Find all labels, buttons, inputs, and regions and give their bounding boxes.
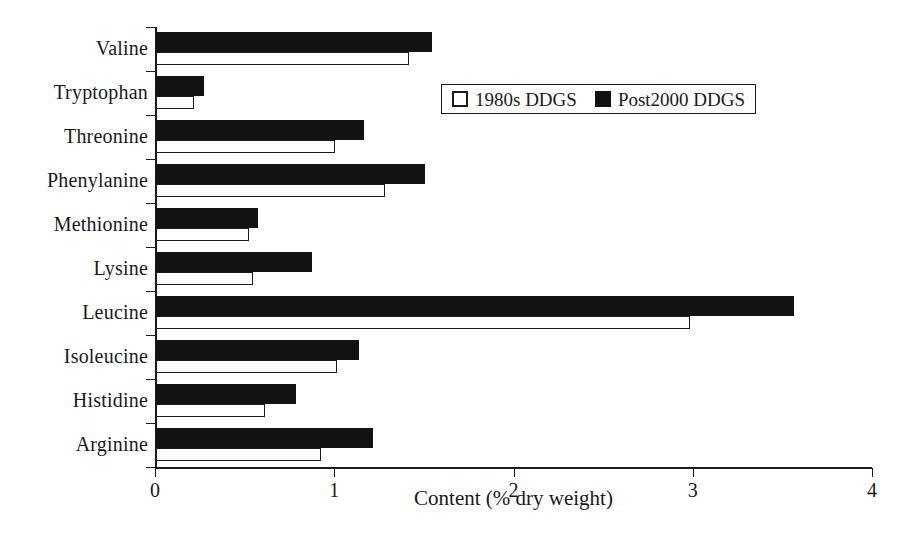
- bar-post2000: [156, 296, 794, 316]
- bar-post2000: [156, 340, 359, 360]
- x-axis-tick: [334, 468, 335, 477]
- bar-1980s: [156, 448, 321, 461]
- y-axis-category-label: Arginine: [0, 434, 148, 454]
- bar-post2000: [156, 428, 373, 448]
- y-axis-category-label: Leucine: [0, 302, 148, 322]
- legend-item-post2000: Post2000 DDGS: [595, 90, 745, 109]
- chart-legend: 1980s DDGS Post2000 DDGS: [441, 84, 756, 114]
- bar-post2000: [156, 76, 204, 96]
- bar-1980s: [156, 404, 265, 417]
- y-axis-tick: [146, 467, 155, 468]
- bar-1980s: [156, 228, 249, 241]
- bar-1980s: [156, 184, 385, 197]
- y-axis-tick: [146, 247, 155, 248]
- y-axis-tick: [146, 115, 155, 116]
- bar-1980s: [156, 52, 409, 65]
- y-axis-tick: [146, 159, 155, 160]
- legend-label-1980s: 1980s DDGS: [475, 90, 577, 109]
- x-axis-title: Content (% dry weight): [155, 486, 872, 511]
- y-axis-category-label: Threonine: [0, 126, 148, 146]
- y-axis-tick: [146, 203, 155, 204]
- y-axis-category-label: Valine: [0, 38, 148, 58]
- y-axis-category-label: Phenylanine: [0, 170, 148, 190]
- bar-post2000: [156, 164, 425, 184]
- y-axis-category-labels: ValineTryptophanThreoninePhenylanineMeth…: [0, 0, 148, 460]
- bar-1980s: [156, 140, 335, 153]
- bar-1980s: [156, 316, 690, 329]
- bar-1980s: [156, 360, 337, 373]
- x-axis-tick: [155, 468, 156, 477]
- filled-square-swatch: [595, 91, 611, 107]
- legend-item-1980s: 1980s DDGS: [452, 90, 577, 109]
- y-axis-category-label: Methionine: [0, 214, 148, 234]
- bar-chart: ValineTryptophanThreoninePhenylanineMeth…: [0, 0, 908, 546]
- bar-1980s: [156, 96, 194, 109]
- y-axis-tick: [146, 335, 155, 336]
- y-axis-category-label: Tryptophan: [0, 82, 148, 102]
- open-square-swatch: [452, 91, 468, 107]
- legend-label-post2000: Post2000 DDGS: [618, 90, 745, 109]
- x-axis-tick: [872, 468, 873, 477]
- bar-post2000: [156, 252, 312, 272]
- y-axis-tick: [146, 379, 155, 380]
- y-axis-category-label: Histidine: [0, 390, 148, 410]
- bar-post2000: [156, 32, 432, 52]
- y-axis-tick: [146, 291, 155, 292]
- bar-post2000: [156, 384, 296, 404]
- y-axis-category-label: Lysine: [0, 258, 148, 278]
- y-axis-tick: [146, 423, 155, 424]
- x-axis-tick: [514, 468, 515, 477]
- y-axis-tick: [146, 71, 155, 72]
- y-axis-tick: [146, 27, 155, 28]
- bar-post2000: [156, 208, 258, 228]
- bar-1980s: [156, 272, 253, 285]
- y-axis-category-label: Isoleucine: [0, 346, 148, 366]
- x-axis-tick: [693, 468, 694, 477]
- bar-post2000: [156, 120, 364, 140]
